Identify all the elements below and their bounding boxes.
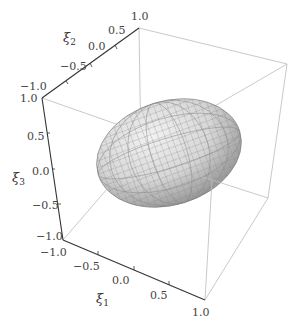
- x-axis-labels: −1.0 −0.5 0.0 0.5 1.0 ξ1: [40, 246, 210, 319]
- svg-text:−0.5: −0.5: [60, 60, 87, 73]
- x-axis-title: ξ1: [96, 291, 109, 308]
- svg-text:1.0: 1.0: [20, 92, 38, 105]
- svg-text:0.5: 0.5: [150, 289, 168, 302]
- svg-text:−0.5: −0.5: [32, 199, 59, 212]
- svg-text:0.0: 0.0: [32, 165, 50, 178]
- y-axis-title: ξ2: [63, 30, 76, 47]
- svg-text:0.5: 0.5: [27, 130, 45, 143]
- svg-text:−0.5: −0.5: [73, 260, 100, 273]
- svg-text:0.0: 0.0: [112, 274, 130, 287]
- y-axis-line: [42, 28, 139, 98]
- ellipsoid-surface: [83, 82, 255, 225]
- z-axis-title: ξ3: [12, 170, 25, 187]
- ellipsoid-3d-plot: −1.0 −0.5 0.0 0.5 1.0 ξ2 1.0 0.5 0.0 −0.…: [0, 0, 293, 326]
- z-axis-labels: 1.0 0.5 0.0 −0.5 −1.0 ξ3: [12, 92, 63, 243]
- svg-text:1.0: 1.0: [192, 306, 210, 319]
- svg-text:0.5: 0.5: [108, 24, 126, 37]
- svg-text:−1.0: −1.0: [36, 230, 63, 243]
- svg-text:1.0: 1.0: [131, 10, 149, 23]
- svg-text:−1.0: −1.0: [40, 246, 67, 259]
- svg-text:0.0: 0.0: [88, 40, 106, 53]
- y-axis-labels: −1.0 −0.5 0.0 0.5 1.0 ξ2: [20, 10, 149, 93]
